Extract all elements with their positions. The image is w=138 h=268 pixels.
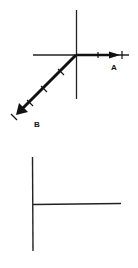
arrowhead-a-icon xyxy=(109,52,120,59)
bottom-figure xyxy=(33,157,122,251)
vector-b: B xyxy=(11,55,76,129)
vector-a-label: A xyxy=(111,63,117,72)
top-figure: A B xyxy=(11,10,129,129)
diagram-canvas: A B xyxy=(0,0,138,268)
horizontal-line xyxy=(33,204,121,205)
vertical-line xyxy=(33,157,34,251)
vector-a: A xyxy=(76,51,122,72)
vector-b-label: B xyxy=(34,120,40,129)
